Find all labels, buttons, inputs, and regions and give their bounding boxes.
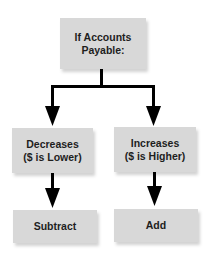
root-condition-box: If Accounts Payable:	[60, 18, 146, 69]
increases-box: Increases ($ is Higher)	[114, 127, 196, 172]
root-label-line2: Payable:	[75, 44, 132, 57]
add-box: Add	[114, 209, 198, 242]
add-label: Add	[146, 219, 166, 232]
increases-label: Increases	[125, 137, 186, 150]
decreases-label: Decreases	[23, 138, 81, 151]
left-branch-arrowhead-icon	[45, 106, 60, 126]
add-arrowhead-icon	[147, 186, 162, 206]
subtract-box: Subtract	[13, 210, 97, 243]
increases-sublabel: ($ is Higher)	[125, 150, 186, 163]
decreases-box: Decreases ($ is Lower)	[12, 128, 93, 173]
subtract-arrowhead-icon	[45, 188, 60, 208]
right-branch-arrowhead-icon	[146, 106, 161, 126]
root-label-line1: If Accounts	[75, 31, 132, 44]
subtract-label: Subtract	[34, 220, 77, 233]
decreases-sublabel: ($ is Lower)	[23, 151, 81, 164]
